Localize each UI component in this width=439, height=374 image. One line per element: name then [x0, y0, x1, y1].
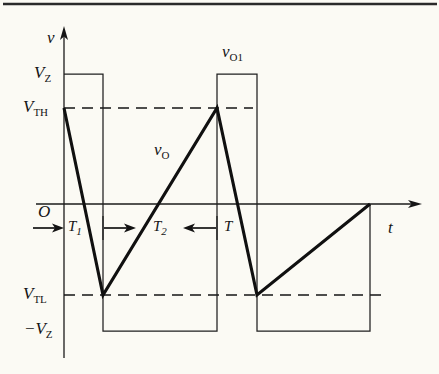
interval-label-period: T [224, 219, 232, 234]
waveform-figure: v t VZ VTH VTL −VZ O vO vO1 T1 T2 T [0, 0, 439, 374]
level-label-vtl: VTL [23, 285, 47, 305]
origin-label: O [38, 203, 50, 220]
signal-label-vo1: vO1 [222, 43, 243, 63]
level-label-vz: VZ [34, 64, 51, 84]
interval-label-t2: T2 [153, 219, 167, 237]
waveform-plot [0, 0, 439, 374]
x-axis-label: t [388, 219, 393, 236]
level-label-vth: VTH [23, 98, 48, 118]
y-axis-label: v [47, 29, 55, 46]
interval-label-t1: T1 [68, 219, 82, 237]
level-label-neg-vz: −VZ [24, 320, 53, 340]
signal-label-vo: vO [154, 141, 170, 161]
